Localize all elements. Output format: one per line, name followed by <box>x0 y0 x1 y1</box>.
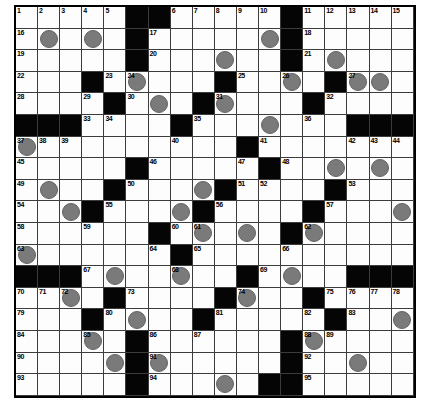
grid-cell[interactable] <box>60 93 82 115</box>
grid-cell[interactable] <box>325 223 347 245</box>
grid-cell[interactable] <box>370 29 392 51</box>
grid-cell[interactable] <box>60 29 82 51</box>
grid-cell[interactable]: 37 <box>16 137 38 159</box>
grid-cell[interactable] <box>193 137 215 159</box>
grid-cell[interactable] <box>392 309 414 331</box>
grid-cell[interactable] <box>370 374 392 396</box>
grid-cell[interactable] <box>215 223 237 245</box>
grid-cell[interactable] <box>237 374 259 396</box>
grid-cell[interactable] <box>193 29 215 51</box>
grid-cell[interactable] <box>259 29 281 51</box>
grid-cell[interactable] <box>325 50 347 72</box>
grid-cell[interactable] <box>149 137 171 159</box>
grid-cell[interactable]: 21 <box>303 50 325 72</box>
grid-cell[interactable] <box>392 245 414 267</box>
grid-cell[interactable] <box>259 93 281 115</box>
grid-cell[interactable]: 9 <box>237 7 259 29</box>
grid-cell[interactable]: 15 <box>392 7 414 29</box>
grid-cell[interactable] <box>347 50 369 72</box>
grid-cell[interactable]: 5 <box>104 7 126 29</box>
grid-cell[interactable]: 40 <box>171 137 193 159</box>
grid-cell[interactable] <box>347 353 369 375</box>
grid-cell[interactable] <box>325 353 347 375</box>
grid-cell[interactable] <box>82 180 104 202</box>
grid-cell[interactable] <box>347 245 369 267</box>
grid-cell[interactable] <box>281 266 303 288</box>
grid-cell[interactable] <box>370 309 392 331</box>
grid-cell[interactable]: 63 <box>16 245 38 267</box>
grid-cell[interactable]: 70 <box>16 288 38 310</box>
grid-cell[interactable]: 79 <box>16 309 38 331</box>
grid-cell[interactable]: 62 <box>303 223 325 245</box>
grid-cell[interactable]: 6 <box>171 7 193 29</box>
grid-cell[interactable] <box>237 353 259 375</box>
grid-cell[interactable]: 90 <box>16 353 38 375</box>
grid-cell[interactable] <box>325 245 347 267</box>
grid-cell[interactable] <box>38 180 60 202</box>
grid-cell[interactable] <box>215 158 237 180</box>
grid-cell[interactable] <box>303 180 325 202</box>
grid-cell[interactable]: 87 <box>193 331 215 353</box>
grid-cell[interactable]: 85 <box>82 331 104 353</box>
grid-cell[interactable] <box>82 137 104 159</box>
grid-cell[interactable]: 29 <box>82 93 104 115</box>
grid-cell[interactable]: 54 <box>16 201 38 223</box>
grid-cell[interactable]: 24 <box>126 72 148 94</box>
grid-cell[interactable]: 45 <box>16 158 38 180</box>
grid-cell[interactable]: 84 <box>16 331 38 353</box>
grid-cell[interactable] <box>237 50 259 72</box>
grid-cell[interactable] <box>392 50 414 72</box>
grid-cell[interactable] <box>171 288 193 310</box>
grid-cell[interactable] <box>104 353 126 375</box>
grid-cell[interactable]: 67 <box>82 266 104 288</box>
grid-cell[interactable] <box>237 331 259 353</box>
grid-cell[interactable]: 80 <box>104 309 126 331</box>
grid-cell[interactable] <box>259 245 281 267</box>
grid-cell[interactable]: 8 <box>215 7 237 29</box>
grid-cell[interactable] <box>82 288 104 310</box>
grid-cell[interactable]: 14 <box>370 7 392 29</box>
grid-cell[interactable] <box>303 158 325 180</box>
grid-cell[interactable]: 30 <box>126 93 148 115</box>
grid-cell[interactable] <box>104 331 126 353</box>
grid-cell[interactable] <box>281 93 303 115</box>
grid-cell[interactable]: 74 <box>237 288 259 310</box>
grid-cell[interactable] <box>347 158 369 180</box>
grid-cell[interactable]: 91 <box>149 353 171 375</box>
grid-cell[interactable] <box>38 353 60 375</box>
grid-cell[interactable] <box>60 201 82 223</box>
grid-cell[interactable]: 2 <box>38 7 60 29</box>
grid-cell[interactable] <box>193 288 215 310</box>
grid-cell[interactable]: 95 <box>303 374 325 396</box>
grid-cell[interactable]: 68 <box>171 266 193 288</box>
grid-cell[interactable] <box>193 72 215 94</box>
grid-cell[interactable]: 78 <box>392 288 414 310</box>
grid-cell[interactable]: 39 <box>60 137 82 159</box>
grid-cell[interactable]: 35 <box>193 115 215 137</box>
grid-cell[interactable] <box>392 29 414 51</box>
grid-cell[interactable] <box>126 201 148 223</box>
grid-cell[interactable]: 60 <box>171 223 193 245</box>
grid-cell[interactable]: 56 <box>215 201 237 223</box>
grid-cell[interactable] <box>303 245 325 267</box>
grid-cell[interactable] <box>38 158 60 180</box>
grid-cell[interactable]: 46 <box>149 158 171 180</box>
grid-cell[interactable]: 82 <box>303 309 325 331</box>
grid-cell[interactable] <box>237 201 259 223</box>
grid-cell[interactable] <box>215 353 237 375</box>
grid-cell[interactable] <box>149 288 171 310</box>
grid-cell[interactable] <box>38 50 60 72</box>
grid-cell[interactable]: 89 <box>325 331 347 353</box>
grid-cell[interactable] <box>303 137 325 159</box>
grid-cell[interactable]: 43 <box>370 137 392 159</box>
grid-cell[interactable]: 33 <box>82 115 104 137</box>
grid-cell[interactable]: 12 <box>325 7 347 29</box>
grid-cell[interactable] <box>126 137 148 159</box>
grid-cell[interactable] <box>325 266 347 288</box>
grid-cell[interactable] <box>171 374 193 396</box>
grid-cell[interactable]: 20 <box>149 50 171 72</box>
grid-cell[interactable] <box>82 50 104 72</box>
grid-cell[interactable] <box>171 93 193 115</box>
grid-cell[interactable] <box>60 353 82 375</box>
grid-cell[interactable] <box>126 266 148 288</box>
